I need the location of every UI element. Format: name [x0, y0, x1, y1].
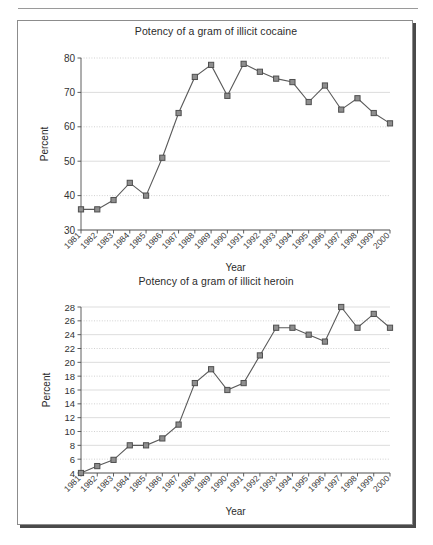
- svg-text:8: 8: [70, 440, 75, 451]
- page-header-rule: [18, 8, 418, 9]
- svg-text:70: 70: [64, 87, 76, 98]
- svg-text:24: 24: [64, 329, 75, 340]
- svg-text:10: 10: [64, 426, 75, 437]
- svg-text:60: 60: [64, 121, 76, 132]
- chart-cocaine-plot: 3040506070801981198219831984198519861987…: [18, 25, 414, 275]
- svg-text:12: 12: [64, 412, 75, 423]
- svg-text:Year: Year: [225, 506, 246, 517]
- chart-heroin: Potency of a gram of illicit heroin 4681…: [18, 275, 414, 523]
- chart-cocaine: Potency of a gram of illicit cocaine 304…: [18, 25, 414, 275]
- svg-text:40: 40: [64, 190, 76, 201]
- svg-text:18: 18: [64, 371, 75, 382]
- svg-text:20: 20: [64, 357, 75, 368]
- svg-text:Percent: Percent: [41, 373, 52, 408]
- svg-text:80: 80: [64, 53, 76, 64]
- svg-text:26: 26: [64, 315, 75, 326]
- figure-frame: Potency of a gram of illicit cocaine 304…: [17, 20, 413, 525]
- svg-text:14: 14: [64, 398, 75, 409]
- svg-text:Year: Year: [225, 262, 246, 273]
- page-header-ghost-text: [120, 0, 180, 3]
- svg-text:Percent: Percent: [39, 127, 50, 162]
- svg-text:22: 22: [64, 343, 75, 354]
- svg-text:50: 50: [64, 156, 76, 167]
- chart-heroin-plot: 4681012141618202224262819811982198319841…: [18, 275, 414, 523]
- svg-text:6: 6: [70, 454, 75, 465]
- svg-text:28: 28: [64, 302, 75, 313]
- svg-text:16: 16: [64, 385, 75, 396]
- svg-text:1981: 1981: [62, 473, 83, 494]
- page-root: Potency of a gram of illicit cocaine 304…: [0, 0, 433, 545]
